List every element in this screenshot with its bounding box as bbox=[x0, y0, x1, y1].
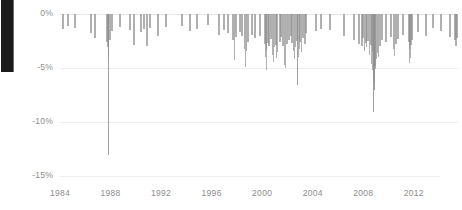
x-axis: 19841988199219962000200420082012 bbox=[0, 0, 462, 210]
x-tick-label: 2004 bbox=[293, 188, 333, 198]
x-tick-label: 1988 bbox=[91, 188, 131, 198]
x-tick-label: 2000 bbox=[242, 188, 282, 198]
x-tick-label: 1992 bbox=[141, 188, 181, 198]
x-tick-label: 1984 bbox=[40, 188, 80, 198]
x-tick-label: 2008 bbox=[343, 188, 383, 198]
x-tick-label: 2012 bbox=[394, 188, 434, 198]
x-tick-label: 1996 bbox=[192, 188, 232, 198]
chart-container: 0%-5%-10%-15% 19841988199219962000200420… bbox=[0, 0, 462, 210]
